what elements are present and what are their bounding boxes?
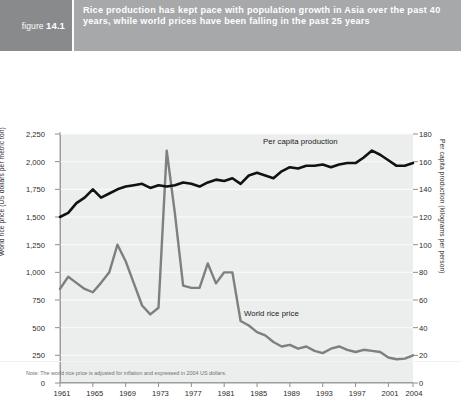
figure-note: Note: The world rice price is adjusted f… [26,370,226,376]
chart-container: World rice price (US dollars per metric … [0,51,461,361]
page-title: Rice production has kept pace with popul… [83,5,453,27]
x-tickmarks [60,383,413,387]
figure-title-block: Rice production has kept pace with popul… [72,0,461,51]
series-line-production [60,151,413,217]
chart-svg [0,51,461,396]
figure-number-block: figure 14.1 [0,0,72,51]
footer-divider [0,361,461,362]
figure-number-label: figure 14.1 [22,20,65,31]
tickmarks [55,134,418,383]
figure-header: figure 14.1 Rice production has kept pac… [0,0,461,51]
